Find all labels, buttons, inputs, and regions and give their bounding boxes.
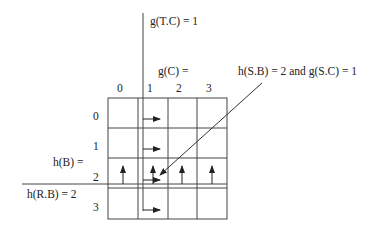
row-header-1: 1 [93,140,99,152]
annotation-pointer [160,83,262,175]
row-header-0: 0 [93,110,99,122]
label-h-b: h(B) = [53,156,83,168]
diagram-canvas: g(T.C) = 1 g(C) = h(S.B) = 2 and g(S.C) … [0,0,372,233]
grid [108,98,227,219]
column-header-3: 3 [206,82,212,94]
column-header-0: 0 [117,82,123,94]
row-header-3: 3 [93,201,99,213]
label-h-sb-g-sc: h(S.B) = 2 and g(S.C) = 1 [238,65,357,77]
right-arrows [143,119,160,210]
column-header-2: 2 [176,82,182,94]
label-h-rb: h(R.B) = 2 [27,188,77,200]
column-header-1: 1 [147,82,153,94]
label-g-c: g(C) = [158,65,188,77]
row-header-2: 2 [93,171,99,183]
label-g-tc: g(T.C) = 1 [150,15,198,27]
